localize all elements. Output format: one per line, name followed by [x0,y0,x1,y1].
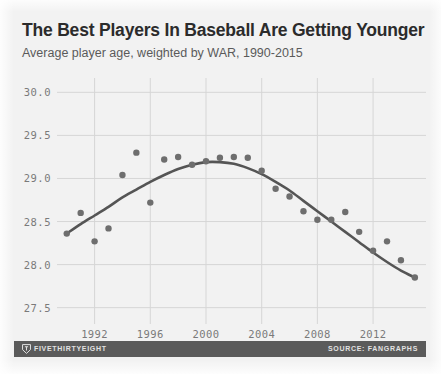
data-point [412,274,418,280]
data-point [314,217,320,223]
data-point [328,217,334,223]
y-axis-tick-label: 29.0 [5,172,51,184]
data-point [161,156,167,162]
trend-line [67,162,415,278]
fivethirtyeight-shield-icon [22,344,31,354]
data-point [203,158,209,164]
data-point [217,155,223,161]
data-point [189,161,195,167]
data-point [231,154,237,160]
x-axis-tick-label: 1992 [72,328,118,340]
footer-source-label: SOURCE: FANGRAPHS [328,345,418,352]
data-point [245,155,251,161]
gridlines [57,78,426,324]
chart-plot-area [0,0,441,374]
data-point [175,154,181,160]
data-point [119,172,125,178]
x-axis-tick-label: 2012 [350,328,396,340]
x-axis-tick-label: 2004 [239,328,285,340]
data-point [105,225,111,231]
data-point [258,168,264,174]
data-point [286,193,292,199]
data-point [370,248,376,254]
data-point [384,238,390,244]
data-point [64,230,70,236]
data-point [147,199,153,205]
chart-footer: FIVETHIRTYEIGHT SOURCE: FANGRAPHS [14,341,426,357]
data-point [398,257,404,263]
data-point [356,229,362,235]
data-point [133,149,139,155]
footer-brand-label: FIVETHIRTYEIGHT [34,345,107,352]
data-point [342,209,348,215]
y-axis-tick-label: 28.0 [5,259,51,271]
y-axis-tick-label: 27.5 [5,302,51,314]
data-points [64,149,419,280]
y-axis-tick-label: 29.5 [5,129,51,141]
data-point [272,186,278,192]
y-axis-tick-label: 30.0 [5,86,51,98]
data-point [77,210,83,216]
x-axis-tick-label: 2000 [183,328,229,340]
y-axis-tick-label: 28.5 [5,216,51,228]
chart-figure: The Best Players In Baseball Are Getting… [0,0,441,374]
data-point [300,208,306,214]
data-point [91,238,97,244]
x-axis-tick-label: 2008 [294,328,340,340]
x-axis-tick-label: 1996 [127,328,173,340]
